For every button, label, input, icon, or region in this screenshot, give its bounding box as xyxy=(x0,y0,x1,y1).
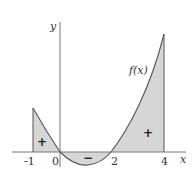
sign-positive-left: + xyxy=(37,135,47,149)
curve-label: f(x) xyxy=(128,64,148,77)
x-axis-label: x xyxy=(180,153,187,166)
tick-label-neg1: -1 xyxy=(24,155,35,168)
sign-positive-right: + xyxy=(143,126,153,140)
region-positive-right xyxy=(111,34,164,152)
tick-label-2: 2 xyxy=(111,155,118,168)
y-axis-label: y xyxy=(49,20,57,33)
tick-label-0: 0 xyxy=(52,155,59,168)
tick-label-4: 4 xyxy=(161,155,168,168)
signed-area-diagram: y x f(x) -1 0 2 4 + − + xyxy=(0,0,196,169)
sign-negative-middle: − xyxy=(83,151,93,165)
